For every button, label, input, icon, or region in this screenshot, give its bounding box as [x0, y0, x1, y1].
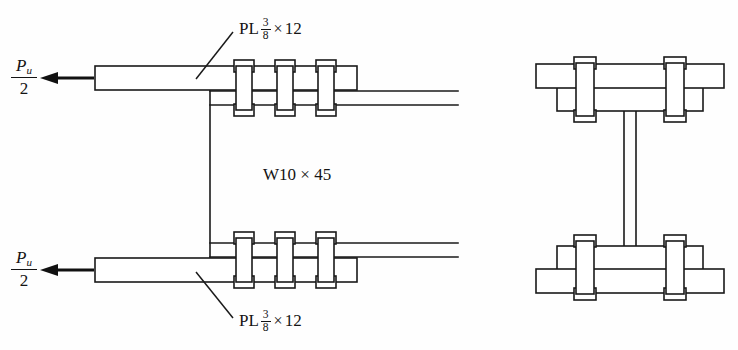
- label-plate-bottom-numerator: 3: [261, 309, 271, 321]
- label-load-top: Pu 2: [11, 56, 37, 98]
- bolt-bottom-3: [316, 232, 336, 288]
- label-load-bottom-symbol: P: [16, 248, 26, 267]
- label-plate-bottom: PL38×12: [239, 309, 302, 334]
- bolt-group-bottom: [234, 232, 336, 288]
- label-plate-bottom-prefix: PL: [239, 311, 259, 330]
- label-load-bottom-denominator: 2: [11, 269, 37, 290]
- label-load-bottom-subscript: u: [26, 256, 32, 268]
- bolt-group-top: [234, 60, 336, 116]
- bolt-top-2: [275, 60, 295, 116]
- figure-canvas: PL38×12 PL38×12 W10 × 45 Pu 2 Pu 2: [0, 0, 738, 350]
- label-load-bottom-fraction: Pu 2: [11, 248, 37, 290]
- label-plate-top-denominator: 8: [261, 29, 271, 42]
- label-plate-bottom-fraction: 38: [261, 309, 271, 334]
- load-arrow-top: [40, 72, 94, 84]
- label-member-designation: W10 × 45: [263, 166, 331, 183]
- bolt-bottom-2: [275, 232, 295, 288]
- splice-plate-bottom-section: [536, 269, 724, 293]
- splice-plate-top-section: [536, 64, 724, 88]
- bolt-section-bottom-left: [574, 235, 596, 300]
- label-load-bottom-numerator: Pu: [11, 248, 37, 269]
- label-plate-bottom-width: 12: [285, 311, 302, 330]
- label-load-top-fraction: Pu 2: [11, 56, 37, 98]
- splice-connection-drawing: [0, 0, 738, 350]
- label-plate-top-numerator: 3: [261, 17, 271, 29]
- elevation-view: [40, 32, 458, 318]
- load-arrow-bottom: [40, 264, 94, 276]
- label-plate-top-width: 12: [285, 19, 302, 38]
- label-plate-top-times-icon: ×: [272, 20, 285, 37]
- beam-web-section: [624, 111, 636, 246]
- bolt-section-top-right: [664, 57, 686, 122]
- label-load-top-symbol: P: [16, 56, 26, 75]
- label-load-bottom: Pu 2: [11, 248, 37, 290]
- label-load-top-numerator: Pu: [11, 56, 37, 77]
- label-load-top-denominator: 2: [11, 77, 37, 98]
- label-plate-top-fraction: 38: [261, 17, 271, 42]
- bolt-section-bottom-right: [664, 235, 686, 300]
- section-view: [536, 57, 724, 300]
- label-plate-bottom-times-icon: ×: [272, 312, 285, 329]
- bolt-section-top-left: [574, 57, 596, 122]
- bolt-top-3: [316, 60, 336, 116]
- bolt-top-1: [234, 60, 254, 116]
- label-plate-top-prefix: PL: [239, 19, 259, 38]
- label-load-top-subscript: u: [26, 64, 32, 76]
- label-plate-top: PL38×12: [239, 17, 302, 42]
- label-plate-bottom-denominator: 8: [261, 321, 271, 334]
- bolt-bottom-1: [234, 232, 254, 288]
